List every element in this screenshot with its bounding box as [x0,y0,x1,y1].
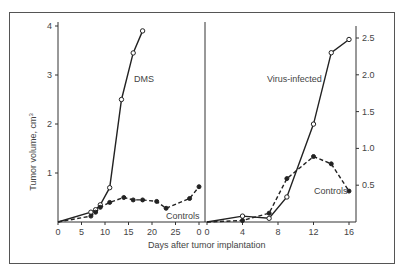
x-tick-label: 10 [100,227,110,237]
filled-marker [89,214,93,218]
y-tick-label: 1.5 [362,107,375,117]
open-marker [240,214,244,218]
x-tick-label: 15 [123,227,133,237]
y-tick-label: 1 [47,168,52,178]
right-controls-label: Controls [314,186,348,196]
filled-marker [267,211,271,215]
y-tick-label: 4 [47,21,52,31]
virus-infected-label: Virus-infected [267,74,322,84]
filled-marker [312,154,316,158]
open-marker [108,186,112,190]
filled-marker [197,185,201,189]
open-marker [131,51,135,55]
x-tick-label: 16 [344,227,354,237]
left-y-ticks: 1234 [47,21,58,178]
y-tick-label: 1.0 [362,143,375,153]
x-tick-label: 0 [55,227,60,237]
left-panel: 1234 05101520250 DMS Controls [47,21,205,237]
dms-label: DMS [134,74,154,84]
filled-marker [329,162,333,166]
filled-marker [164,206,168,210]
open-marker [140,29,144,33]
open-marker [329,51,333,55]
y-tick-label: 2.0 [362,70,375,80]
x-tick-label: 25 [170,227,180,237]
x-tick-label: 12 [308,227,318,237]
y-tick-label: 2.5 [362,33,375,43]
filled-marker [141,198,145,202]
y-tick-label: 3 [47,70,52,80]
right-y-ticks: 0.51.01.52.02.5 [356,33,375,190]
open-marker [267,216,271,220]
filled-marker [108,200,112,204]
filled-marker [285,177,289,181]
right-x-ticks: 0481216 [204,222,354,237]
filled-marker [131,198,135,202]
y-tick-label: 0.5 [362,180,375,190]
open-marker [119,97,123,101]
svg-text:Tumor volume, cm3: Tumor volume, cm3 [28,113,38,191]
x-tick-label: 0 [204,227,209,237]
x-tick-label: 20 [147,227,157,237]
filled-marker [98,205,102,209]
x-tick-label: 8 [275,227,280,237]
x-tick-label: 0 [196,227,201,237]
x-axis-title: Days after tumor implantation [148,240,266,250]
filled-marker [94,210,98,214]
filled-marker [122,196,126,200]
open-marker [311,122,315,126]
left-series [58,29,201,222]
y-axis-title: Tumor volume, cm3 [28,113,38,191]
y-axis-title-text: Tumor volume, cm [28,117,38,191]
x-tick-label: 4 [240,227,245,237]
series-line [58,31,143,222]
right-panel: 0.51.01.52.02.5 0481216 Virus-infected C… [204,26,374,237]
x-tick-label: 5 [79,227,84,237]
filled-marker [155,199,159,203]
filled-marker [347,189,351,193]
filled-marker [241,219,245,223]
left-x-ticks: 05101520250 [55,222,201,237]
open-marker [347,37,351,41]
y-axis-title-sup: 3 [28,113,34,117]
open-marker [285,195,289,199]
filled-marker [188,196,192,200]
left-controls-label: Controls [166,211,200,221]
y-tick-label: 2 [47,119,52,129]
tumor-volume-chart: 1234 05101520250 DMS Controls 0.51.01.52… [0,0,404,275]
